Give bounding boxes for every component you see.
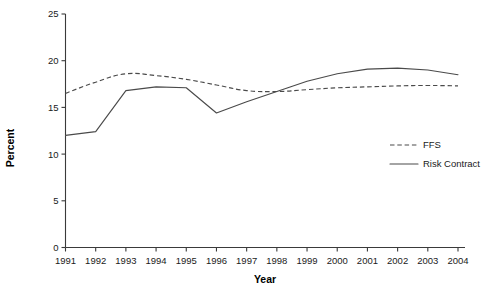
y-tick-label: 15 [48,102,59,113]
chart-container: 0510152025 19911992199319941995199619971… [0,0,493,296]
x-tick-label: 2003 [417,255,438,266]
legend-label-risk-contract: Risk Contract [423,158,480,169]
x-tick-label: 1993 [115,255,136,266]
x-axis-title: Year [254,273,276,285]
series-line-ffs [66,73,459,93]
series-line-risk-contract [66,68,459,135]
y-axis-ticks [62,14,66,248]
x-tick-label: 2002 [387,255,408,266]
line-chart: 0510152025 19911992199319941995199619971… [0,0,493,296]
legend-label-ffs: FFS [423,139,441,150]
x-axis-ticks [66,248,459,252]
y-tick-label: 0 [53,242,58,253]
x-tick-label: 1995 [176,255,197,266]
x-axis: 1991199219931994199519961997199819992000… [55,248,469,266]
y-tick-label: 10 [48,149,59,160]
data-series-group [66,68,459,135]
y-tick-label: 25 [48,8,59,19]
x-tick-label: 2004 [447,255,468,266]
x-tick-label: 2000 [327,255,348,266]
x-tick-label: 1996 [206,255,227,266]
x-tick-label: 1999 [296,255,317,266]
x-tick-label: 1991 [55,255,76,266]
y-tick-label: 5 [53,195,58,206]
y-axis-title: Percent [4,128,16,167]
y-axis-tick-labels: 0510152025 [48,8,59,253]
x-axis-tick-labels: 1991199219931994199519961997199819992000… [55,255,469,266]
y-axis: 0510152025 [48,8,66,253]
y-tick-label: 20 [48,55,59,66]
x-tick-label: 1998 [266,255,287,266]
x-tick-label: 1997 [236,255,257,266]
chart-legend: FFSRisk Contract [390,139,480,169]
x-tick-label: 1992 [85,255,106,266]
x-tick-label: 1994 [146,255,167,266]
x-tick-label: 2001 [357,255,378,266]
